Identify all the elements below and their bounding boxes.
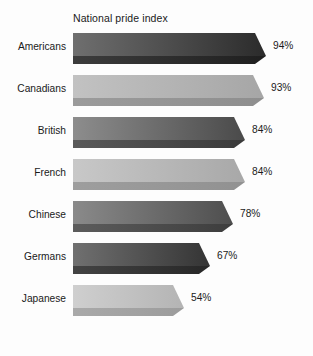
bar-category-label: Germans bbox=[0, 251, 66, 262]
bar-face bbox=[73, 285, 184, 308]
bar-bottom-face bbox=[73, 98, 264, 106]
bar-face bbox=[73, 159, 245, 182]
bar-category-label: British bbox=[0, 125, 66, 136]
bar-face bbox=[73, 33, 266, 56]
bar-value-label: 84% bbox=[252, 166, 272, 177]
bar-row: British84% bbox=[0, 117, 313, 159]
bar-bottom-face bbox=[73, 224, 233, 232]
bar-row: Americans94% bbox=[0, 33, 313, 75]
bar-category-label: Chinese bbox=[0, 209, 66, 220]
bar-category-label: French bbox=[0, 167, 66, 178]
bar-row: Canadians93% bbox=[0, 75, 313, 117]
bar-category-label: Americans bbox=[0, 41, 66, 52]
bar-japanese bbox=[73, 285, 184, 317]
bar-value-label: 84% bbox=[252, 124, 272, 135]
bar-bottom-face bbox=[73, 140, 245, 148]
bar-row: French84% bbox=[0, 159, 313, 201]
bar-value-label: 67% bbox=[217, 250, 237, 261]
bar-face bbox=[73, 117, 245, 140]
bar-face bbox=[73, 201, 233, 224]
bar-canadians bbox=[73, 75, 264, 107]
bar-face bbox=[73, 243, 210, 266]
bar-bottom-face bbox=[73, 266, 210, 274]
plot-area: Americans94%Canadians93%British84%French… bbox=[0, 33, 313, 343]
bar-value-label: 78% bbox=[240, 208, 260, 219]
bar-chinese bbox=[73, 201, 233, 233]
bar-category-label: Japanese bbox=[0, 293, 66, 304]
bar-value-label: 94% bbox=[273, 40, 293, 51]
bar-bottom-face bbox=[73, 308, 184, 316]
chart-title: National pride index bbox=[73, 12, 168, 24]
chart-container: National pride index Americans94%Canadia… bbox=[0, 0, 313, 356]
bar-category-label: Canadians bbox=[0, 83, 66, 94]
bar-row: Germans67% bbox=[0, 243, 313, 285]
bar-germans bbox=[73, 243, 210, 275]
bar-british bbox=[73, 117, 245, 149]
bar-value-label: 93% bbox=[271, 82, 291, 93]
bar-face bbox=[73, 75, 264, 98]
bar-value-label: 54% bbox=[191, 292, 211, 303]
bar-americans bbox=[73, 33, 266, 65]
bar-bottom-face bbox=[73, 182, 245, 190]
bar-bottom-face bbox=[73, 56, 266, 64]
bar-row: Japanese54% bbox=[0, 285, 313, 327]
bar-french bbox=[73, 159, 245, 191]
bar-row: Chinese78% bbox=[0, 201, 313, 243]
